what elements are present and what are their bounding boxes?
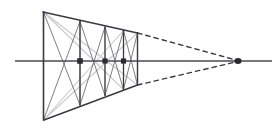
dashed-vanishing-rays xyxy=(138,33,238,85)
bay-4-diagonal-down xyxy=(124,31,138,86)
dot-bay-1-marker xyxy=(77,58,83,64)
perspective-diagram xyxy=(0,0,279,136)
half-diagonal-a-line xyxy=(44,12,124,90)
vanishing-point-dot xyxy=(234,58,241,64)
half-diagonal-b-line xyxy=(44,31,124,121)
perspective-diagram-canvas xyxy=(0,0,279,136)
top-ray-to-vanishing-point xyxy=(138,33,238,60)
bay-2-diagonal-down xyxy=(80,22,105,96)
bottom-ray-to-vanishing-point xyxy=(138,62,238,85)
bottom-edge-line xyxy=(44,85,138,120)
dot-bay-3-marker xyxy=(121,58,126,63)
bay-1-diagonal-up xyxy=(44,22,81,121)
dot-bay-2-marker xyxy=(102,58,107,63)
vanishing-point-marker xyxy=(234,58,241,64)
